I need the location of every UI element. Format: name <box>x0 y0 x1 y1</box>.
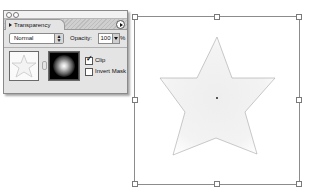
center-point <box>216 97 218 99</box>
handle-bottom-center[interactable] <box>214 181 220 187</box>
handle-bottom-right[interactable] <box>296 181 302 187</box>
handle-top-center[interactable] <box>214 14 220 20</box>
handle-middle-right[interactable] <box>296 97 302 103</box>
selection-bounding-box <box>134 16 300 185</box>
handle-top-left[interactable] <box>132 14 138 20</box>
handle-bottom-left[interactable] <box>132 181 138 187</box>
handle-top-right[interactable] <box>296 14 302 20</box>
handle-middle-left[interactable] <box>132 97 138 103</box>
